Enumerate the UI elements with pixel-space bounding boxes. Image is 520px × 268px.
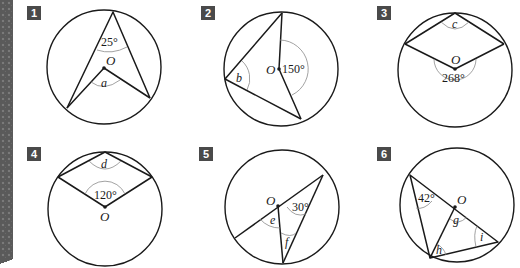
central-angle-1 <box>67 68 150 108</box>
given-angle-label-1: 25° <box>101 35 118 49</box>
given-angle-label-6: 42° <box>418 191 435 205</box>
angle-arc-f <box>281 233 296 236</box>
problem-4-diagram: d 120° O <box>48 152 162 266</box>
angle-arc-b <box>242 61 250 90</box>
given-angle-label-4: 120° <box>94 188 117 202</box>
center-label-1: O <box>106 53 116 68</box>
center-label-3: O <box>451 52 461 67</box>
unknown-label-a: a <box>101 76 107 90</box>
unknown-label-e: e <box>270 213 276 227</box>
problem-1-diagram: 25° O a <box>47 10 161 124</box>
chord-5 <box>283 175 323 263</box>
radius-5 <box>278 206 283 263</box>
unknown-label-c: c <box>452 17 458 31</box>
problem-5-diagram: O 30° e f <box>225 150 339 264</box>
unknown-label-d: d <box>101 157 108 171</box>
unknown-label-i: i <box>480 230 483 244</box>
unknown-label-f: f <box>285 235 290 249</box>
unknown-label-h: h <box>436 243 442 257</box>
given-angle-label-2: 150° <box>282 62 305 76</box>
given-angle-label-5: 30° <box>292 200 309 214</box>
problem-6-diagram: 42° O g h i <box>400 148 514 262</box>
center-label-5: O <box>266 193 276 208</box>
given-angle-label-3: 268° <box>442 71 465 85</box>
radius-6 <box>430 207 455 258</box>
center-label-4: O <box>100 209 110 224</box>
problem-3-diagram: c O 268° <box>398 13 512 127</box>
center-point-2 <box>277 67 281 71</box>
unknown-label-b: b <box>236 71 242 85</box>
center-label-2: O <box>266 62 276 77</box>
center-label-6: O <box>457 192 467 207</box>
problem-2-diagram: O 150° b <box>224 12 338 126</box>
circle-theorem-diagrams: 25° O a O 150° b c O 268° d 120° O <box>0 0 520 268</box>
unknown-label-g: g <box>453 213 459 227</box>
center-point-5 <box>276 204 280 208</box>
angle-arc-i <box>475 226 477 247</box>
